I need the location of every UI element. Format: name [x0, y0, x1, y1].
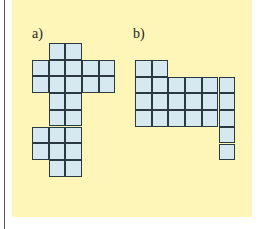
grid-square	[82, 60, 99, 77]
grid-square	[49, 160, 66, 177]
grid-square	[65, 143, 82, 160]
grid-square	[49, 127, 66, 144]
grid-square	[135, 93, 152, 110]
grid-square	[49, 60, 66, 77]
grid-square	[65, 160, 82, 177]
grid-square	[202, 110, 219, 127]
grid-square	[32, 127, 49, 144]
grid-square	[135, 77, 152, 94]
grid-square	[32, 143, 49, 160]
grid-square	[219, 127, 236, 144]
exercise-panel: a) b)	[12, 0, 252, 217]
grid-square	[99, 60, 116, 77]
grid-square	[82, 76, 99, 93]
grid-square	[185, 110, 202, 127]
grid-square	[135, 60, 152, 77]
grid-square	[32, 60, 49, 77]
grid-square	[219, 77, 236, 94]
grid-square	[168, 110, 185, 127]
grid-square	[219, 110, 236, 127]
grid-square	[65, 93, 82, 110]
grid-square	[219, 144, 236, 161]
grid-square	[185, 93, 202, 110]
grid-square	[219, 93, 236, 110]
grid-square	[168, 93, 185, 110]
grid-square	[202, 93, 219, 110]
grid-square	[135, 110, 152, 127]
figure-a-label: a)	[32, 26, 43, 42]
grid-square	[185, 77, 202, 94]
grid-square	[152, 60, 169, 77]
grid-square	[152, 110, 169, 127]
grid-square	[49, 93, 66, 110]
grid-square	[49, 43, 66, 60]
grid-square	[49, 76, 66, 93]
grid-square	[202, 77, 219, 94]
grid-square	[32, 76, 49, 93]
grid-square	[49, 110, 66, 127]
grid-square	[152, 93, 169, 110]
grid-square	[168, 77, 185, 94]
grid-square	[65, 127, 82, 144]
grid-square	[65, 60, 82, 77]
grid-square	[152, 77, 169, 94]
figure-b-label: b)	[133, 26, 145, 42]
grid-square	[65, 76, 82, 93]
margin-rule	[4, 0, 5, 229]
grid-square	[99, 76, 116, 93]
grid-square	[65, 110, 82, 127]
grid-square	[65, 43, 82, 60]
grid-square	[49, 143, 66, 160]
